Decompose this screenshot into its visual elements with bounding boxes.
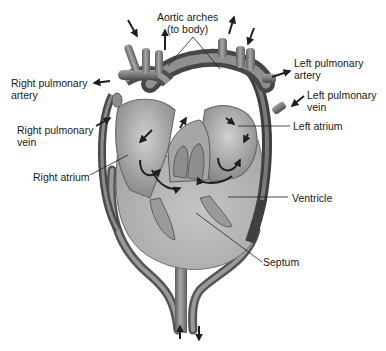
label-septum: Septum (263, 256, 299, 268)
label-left-atrium: Left atrium (293, 120, 343, 132)
label-left-pulmonary-vein: Left pulmonary vein (307, 89, 376, 113)
label-right-atrium: Right atrium (33, 171, 90, 183)
label-left-pulmonary-artery: Left pulmonary artery (294, 57, 363, 81)
label-aortic-arches: Aortic arches (to body) (157, 11, 218, 35)
label-right-pulmonary-vein: Right pulmonary vein (17, 124, 93, 148)
label-ventricle: Ventricle (292, 192, 332, 204)
label-right-pulmonary-artery: Right pulmonary artery (11, 77, 87, 101)
